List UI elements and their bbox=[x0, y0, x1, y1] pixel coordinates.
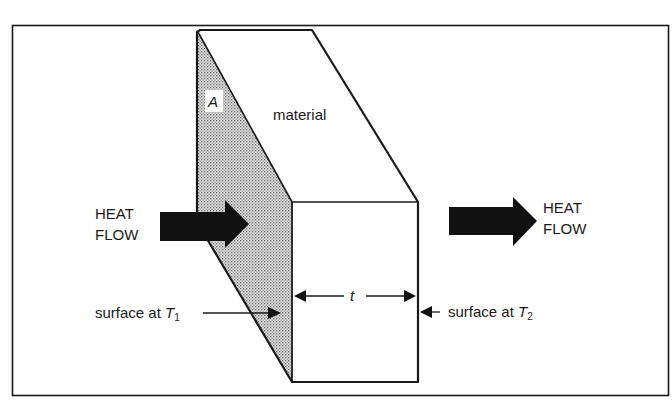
surface-t2-label: surface at T2 bbox=[448, 303, 533, 322]
surface-t2-pointer-icon bbox=[420, 306, 440, 318]
material-label: material bbox=[273, 106, 326, 123]
surface-t1-pointer-icon bbox=[203, 307, 281, 319]
front-face bbox=[292, 202, 418, 382]
heat-flow-in-label-line1: HEAT bbox=[95, 205, 134, 222]
heat-flow-out-label-line1: HEAT bbox=[543, 199, 582, 216]
heat-flow-out-label-line2: FLOW bbox=[543, 220, 587, 237]
area-label: A bbox=[207, 93, 218, 110]
heat-conduction-diagram: A material HEAT FLOW HEAT FLOW t surface… bbox=[0, 0, 672, 413]
diagram-stage: A material HEAT FLOW HEAT FLOW t surface… bbox=[0, 0, 672, 413]
heat-flow-out-arrow-icon bbox=[449, 197, 537, 246]
surface-t1-label: surface at T1 bbox=[95, 304, 180, 323]
heat-flow-in-label-line2: FLOW bbox=[95, 226, 139, 243]
